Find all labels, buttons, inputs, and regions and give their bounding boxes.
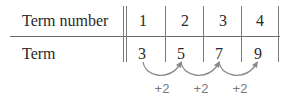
curved-arrow-icon bbox=[181, 62, 217, 75]
curved-arrow-icon bbox=[143, 62, 179, 75]
term-number-cell: 1 bbox=[133, 12, 153, 30]
sequence-table-diagram: Term number Term 1 2 3 4 3 5 7 9 +2 +2 +… bbox=[0, 0, 290, 101]
difference-label: +2 bbox=[188, 82, 214, 96]
term-number-cell: 3 bbox=[213, 12, 233, 30]
term-number-cell: 4 bbox=[250, 12, 270, 30]
curved-arrow-icon bbox=[219, 62, 255, 75]
difference-arrows bbox=[143, 62, 255, 75]
term-cell: 5 bbox=[171, 45, 191, 63]
difference-label: +2 bbox=[149, 82, 175, 96]
term-cell: 7 bbox=[209, 45, 229, 63]
difference-label: +2 bbox=[227, 82, 253, 96]
term-cell: 9 bbox=[248, 45, 268, 63]
row-header-term-number: Term number bbox=[22, 12, 108, 30]
term-cell: 3 bbox=[132, 45, 152, 63]
term-number-cell: 2 bbox=[175, 12, 195, 30]
row-header-term: Term bbox=[22, 45, 56, 63]
